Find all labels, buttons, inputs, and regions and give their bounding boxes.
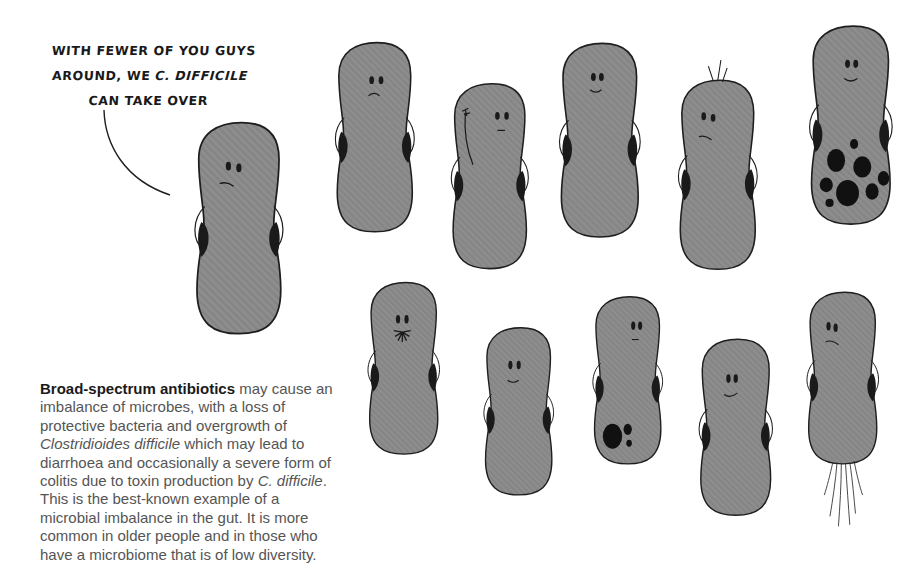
- hair-tuft-icon: [708, 60, 727, 82]
- speech-line-2: AROUND, WE C. DIFFICILE: [49, 63, 251, 88]
- caption-bold-lead: Broad-spectrum antibiotics: [40, 380, 235, 397]
- speech-line-1: WITH FEWER OF YOU GUYS: [51, 38, 253, 63]
- bacterium-bottom-3: [589, 283, 665, 479]
- caption-italic-1: Clostridioides difficile: [40, 435, 180, 452]
- bacterium-top-2: [447, 72, 531, 282]
- bacterium-bottom-2: [480, 312, 556, 512]
- speech-line-2-italic: C. DIFFICILE: [155, 68, 249, 83]
- bacterium-top-3: [555, 35, 643, 247]
- bacterium-bottom-1: [364, 272, 442, 466]
- speech-tail: [95, 105, 185, 205]
- caption-italic-2: C. difficile: [258, 472, 323, 489]
- bacterium-top-4: [674, 60, 760, 274]
- bacterium-speaker: [190, 114, 286, 344]
- bacterium-bottom-5: [803, 272, 881, 548]
- bacterium-top-1: [331, 30, 417, 246]
- bacterium-top-5: [805, 20, 895, 232]
- flagella-icon: [824, 461, 862, 526]
- speech-bubble: WITH FEWER OF YOU GUYS AROUND, WE C. DIF…: [47, 38, 252, 113]
- caption-paragraph: Broad-spectrum antibiotics may cause an …: [40, 380, 340, 564]
- bacterium-bottom-4: [695, 323, 775, 533]
- speech-line-2-prefix: AROUND, WE: [52, 68, 156, 83]
